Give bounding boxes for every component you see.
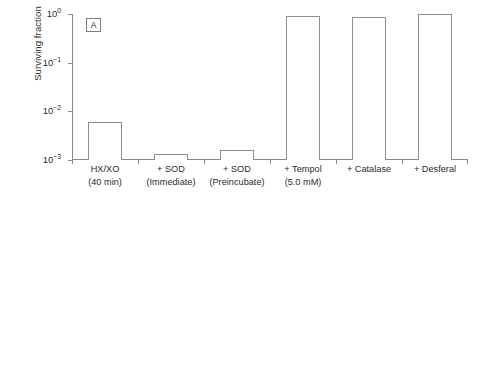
y-axis-title-a-text: Surviving fraction (32, 6, 43, 81)
x-axis-label-line2: (5.0 mM) (270, 176, 336, 189)
y-tick-a-1: 10−1 (68, 63, 73, 64)
x-axis-label-line1: + Tempol (284, 164, 321, 174)
x-axis-label-line1: + Desferal (414, 164, 456, 174)
x-axis-label-line2: (Preincubate) (204, 176, 270, 189)
y-axis-title-a: Surviving fraction (0, 38, 18, 49)
x-axis-label-line1: HX/XO (91, 164, 120, 174)
x-axis-label-line1: + SOD (157, 164, 185, 174)
panel-tag-a: A (86, 18, 101, 32)
x-axis-label-a-1: + SOD(Immediate) (138, 163, 204, 193)
bar-a-5 (418, 14, 452, 160)
x-axis-label-line1: + Catalase (347, 164, 391, 174)
x-axis-label-a-3: + Tempol(5.0 mM) (270, 163, 336, 193)
y-tick-label-a-3: 10−3 (43, 154, 61, 165)
x-axis-label-a-4: + Catalase (336, 163, 402, 193)
y-axis-line-a (72, 14, 73, 160)
x-axis-label-a-0: HX/XO(40 min) (72, 163, 138, 193)
y-tick-a-2: 10−2 (68, 111, 73, 112)
bar-a-4 (352, 17, 386, 160)
y-tick-a-0: 100 (68, 14, 73, 15)
panel-b: Surviving fraction 10010−110−210−310−4 B… (0, 195, 480, 391)
x-axis-label-a-5: + Desferal (402, 163, 468, 193)
bar-a-1 (154, 154, 188, 160)
y-tick-label-a-0: 100 (47, 8, 61, 19)
bar-a-0 (88, 122, 122, 160)
y-tick-label-a-1: 10−1 (43, 57, 61, 68)
plot-area-a: 10010−110−210−3 (72, 14, 468, 160)
x-axis-label-line2: (Immediate) (138, 176, 204, 189)
x-axis-label-line2: (40 min) (72, 176, 138, 189)
bar-a-2 (220, 150, 254, 160)
y-tick-label-a-2: 10−2 (43, 105, 61, 116)
bar-a-3 (286, 16, 320, 160)
panel-a: Surviving fraction 10010−110−210−3 A HX/… (0, 0, 480, 196)
x-axis-labels-a: HX/XO(40 min)+ SOD(Immediate)+ SOD(Prein… (72, 163, 468, 193)
x-axis-label-a-2: + SOD(Preincubate) (204, 163, 270, 193)
figure-container: Surviving fraction 10010−110−210−3 A HX/… (0, 0, 480, 391)
x-axis-label-line1: + SOD (223, 164, 251, 174)
